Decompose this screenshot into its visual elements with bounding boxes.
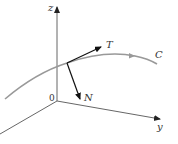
x-axis xyxy=(0,101,57,134)
origin-label: 0 xyxy=(49,93,55,103)
normal-vector-n xyxy=(67,63,80,99)
diagram-canvas: z y 0 C T N xyxy=(0,0,178,144)
curve-direction-arrow-icon xyxy=(129,53,135,59)
y-axis-label: y xyxy=(156,121,163,132)
normal-label-n: N xyxy=(83,92,94,103)
z-axis-label: z xyxy=(47,2,54,13)
y-axis xyxy=(57,101,160,119)
curve-label-c: C xyxy=(155,49,163,60)
tangent-label-t: T xyxy=(106,39,114,50)
curve-c xyxy=(5,54,157,99)
